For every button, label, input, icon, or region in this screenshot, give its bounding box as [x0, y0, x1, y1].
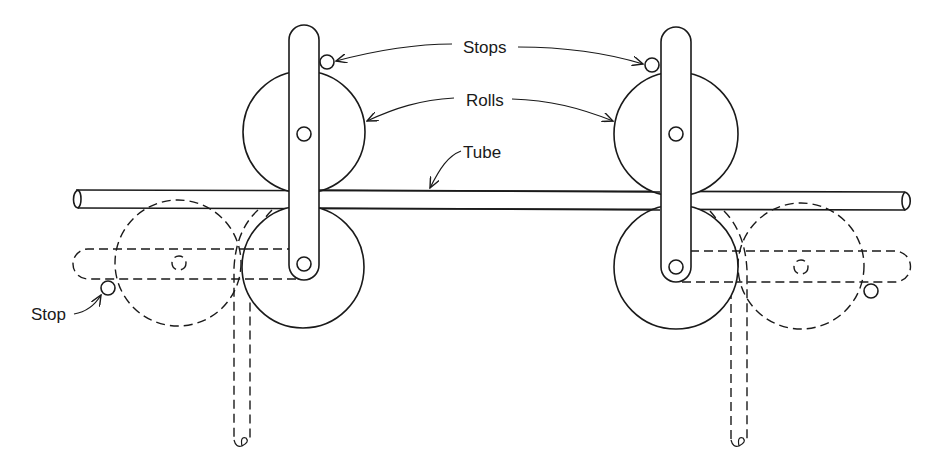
stop-bottom-left — [101, 281, 115, 295]
stop-top-right — [645, 58, 659, 72]
label-stops: Stops — [463, 38, 506, 57]
tube — [74, 190, 911, 210]
arm-left — [289, 25, 319, 280]
rolls-leader-right — [512, 99, 613, 121]
label-tube: Tube — [463, 143, 501, 162]
stops-leader-right — [518, 47, 643, 64]
label-rolls: Rolls — [466, 91, 504, 110]
arm-right — [661, 27, 691, 282]
swung-roll-left — [115, 200, 241, 326]
roll-bending-diagram: Stops Rolls Tube Stop — [0, 0, 940, 469]
stop-bottom-right — [864, 284, 878, 298]
stop-leader — [74, 295, 101, 314]
stops-leader-left — [336, 44, 452, 61]
swung-arm-right-pivot — [794, 260, 808, 274]
swung-arm-left-pivot — [172, 256, 186, 270]
tube-leader — [430, 151, 461, 188]
label-stop: Stop — [31, 305, 66, 324]
stop-top-left — [320, 55, 334, 69]
swung-roll-right — [738, 203, 864, 329]
rolls-leader-left — [367, 98, 454, 121]
